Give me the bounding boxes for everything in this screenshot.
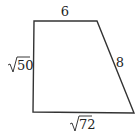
top-side-label: 6 <box>61 4 69 19</box>
trapezoid-diagram: 6 8 50 72 <box>0 0 138 134</box>
left-side-value: 50 <box>17 58 34 73</box>
right-side-label: 8 <box>116 55 124 70</box>
bottom-side-value: 72 <box>79 117 96 132</box>
left-side-label: 50 <box>8 57 34 73</box>
bottom-side-label: 72 <box>70 116 96 132</box>
